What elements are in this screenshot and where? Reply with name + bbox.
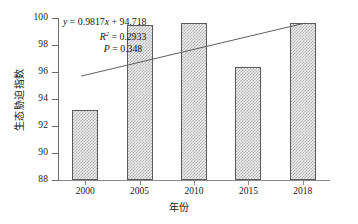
bar-2015 bbox=[235, 67, 261, 180]
x-tick-mark bbox=[248, 180, 249, 185]
y-tick-mark bbox=[52, 99, 58, 100]
chart-figure: 889092949698100 20002005201020152018 y =… bbox=[0, 0, 358, 224]
x-tick-mark bbox=[140, 180, 141, 185]
x-tick-label: 2015 bbox=[226, 186, 270, 197]
x-tick-label: 2005 bbox=[118, 186, 162, 197]
r-squared-value: R2 = 0.2933 bbox=[62, 28, 202, 43]
y-tick-label: 88 bbox=[12, 175, 48, 184]
x-tick-mark bbox=[85, 180, 86, 185]
regression-annotation: y = 0.9817x + 94.718 R2 = 0.2933 P = 0.3… bbox=[62, 16, 202, 55]
x-axis-title: 年份 bbox=[0, 199, 358, 214]
bar-2000 bbox=[72, 110, 98, 180]
x-tick-label: 2018 bbox=[281, 186, 325, 197]
y-tick-mark bbox=[52, 72, 58, 73]
regression-equation: y = 0.9817x + 94.718 bbox=[62, 16, 202, 28]
p-value-number: = 0.348 bbox=[110, 43, 142, 54]
x-tick-mark bbox=[303, 180, 304, 185]
y-axis-title: 生态胁迫指数 bbox=[11, 45, 26, 155]
y-tick-mark bbox=[52, 45, 58, 46]
equation-tail-part: + 94.718 bbox=[109, 16, 146, 27]
y-tick-mark bbox=[52, 180, 58, 181]
bar-2018 bbox=[290, 23, 316, 180]
y-tick-mark bbox=[52, 126, 58, 127]
r-squared-number: = 0.2933 bbox=[109, 31, 146, 42]
x-tick-label: 2010 bbox=[172, 186, 216, 197]
y-tick-mark bbox=[52, 18, 58, 19]
p-value: P = 0.348 bbox=[62, 43, 202, 55]
x-tick-mark bbox=[194, 180, 195, 185]
equation-eq-part: = 0.9817 bbox=[67, 16, 104, 27]
x-tick-label: 2000 bbox=[63, 186, 107, 197]
y-tick-label: 100 bbox=[12, 13, 48, 22]
y-tick-mark bbox=[52, 153, 58, 154]
